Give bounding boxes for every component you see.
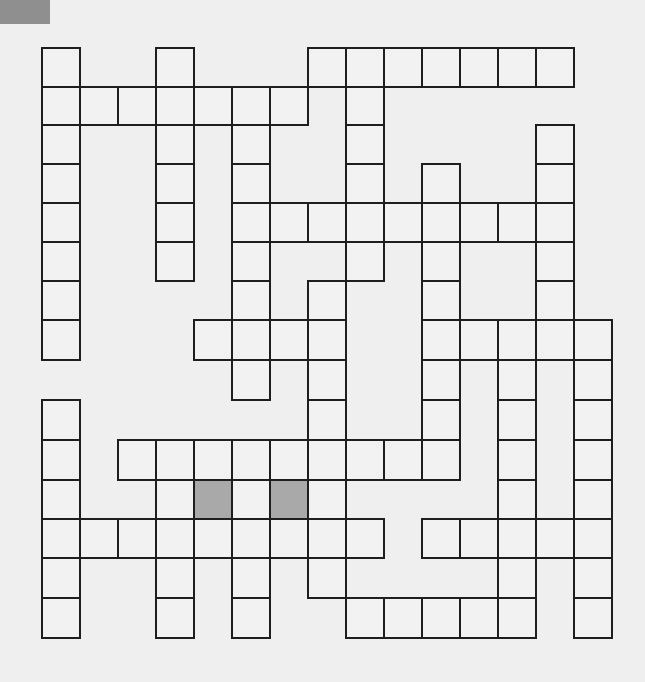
crossword-cell[interactable] [497,319,537,361]
crossword-cell[interactable] [155,163,195,204]
crossword-cell[interactable] [41,597,81,639]
crossword-cell[interactable] [231,518,271,559]
crossword-cell[interactable] [155,439,195,481]
crossword-cell[interactable] [345,86,385,126]
crossword-cell[interactable] [345,439,385,481]
crossword-cell[interactable] [307,557,347,599]
crossword-cell[interactable] [231,86,271,126]
crossword-cell[interactable] [497,479,537,520]
crossword-cell[interactable] [193,518,233,559]
crossword-cell[interactable] [269,202,309,243]
crossword-cell[interactable] [383,47,423,88]
crossword-cell[interactable] [269,319,309,361]
crossword-cell[interactable] [307,319,347,361]
crossword-cell[interactable] [231,163,271,204]
crossword-cell[interactable] [497,47,537,88]
crossword-cell[interactable] [193,86,233,126]
crossword-cell[interactable] [535,163,575,204]
crossword-cell[interactable] [421,359,461,401]
crossword-cell[interactable] [421,319,461,361]
crossword-cell[interactable] [307,399,347,441]
crossword-cell[interactable] [573,479,613,520]
crossword-cell[interactable] [193,319,233,361]
crossword-cell[interactable] [573,597,613,639]
crossword-cell[interactable] [117,439,157,481]
crossword-cell[interactable] [307,359,347,401]
crossword-cell[interactable] [345,597,385,639]
crossword-cell[interactable] [79,518,119,559]
crossword-cell[interactable] [155,518,195,559]
crossword-cell[interactable] [421,47,461,88]
crossword-cell[interactable] [155,241,195,282]
crossword-cell[interactable] [231,241,271,282]
crossword-cell[interactable] [535,47,575,88]
crossword-cell[interactable] [573,359,613,401]
crossword-cell[interactable] [421,202,461,243]
crossword-cell[interactable] [497,557,537,599]
crossword-cell[interactable] [41,439,81,481]
crossword-cell[interactable] [41,241,81,282]
crossword-cell[interactable] [41,479,81,520]
crossword-cell[interactable] [307,280,347,321]
crossword-cell[interactable] [155,124,195,165]
crossword-cell[interactable] [535,518,575,559]
crossword-cell[interactable] [41,280,81,321]
crossword-cell[interactable] [573,319,613,361]
crossword-cell[interactable] [383,597,423,639]
crossword-cell[interactable] [383,439,423,481]
crossword-cell[interactable] [421,597,461,639]
crossword-cell[interactable] [155,86,195,126]
crossword-cell[interactable] [41,163,81,204]
crossword-cell[interactable] [307,47,347,88]
crossword-cell[interactable] [79,86,119,126]
crossword-cell[interactable] [231,202,271,243]
crossword-cell[interactable] [41,202,81,243]
crossword-cell[interactable] [421,163,461,204]
crossword-cell[interactable] [41,557,81,599]
crossword-cell[interactable] [421,280,461,321]
crossword-cell[interactable] [41,47,81,88]
crossword-cell[interactable] [459,597,499,639]
crossword-cell[interactable] [345,124,385,165]
crossword-cell[interactable] [383,202,423,243]
crossword-cell[interactable] [497,202,537,243]
crossword-cell[interactable] [41,399,81,441]
crossword-cell[interactable] [41,124,81,165]
crossword-cell[interactable] [573,557,613,599]
crossword-cell[interactable] [307,479,347,520]
crossword-cell[interactable] [307,518,347,559]
crossword-cell[interactable] [459,202,499,243]
crossword-cell[interactable] [231,597,271,639]
crossword-cell[interactable] [497,439,537,481]
crossword-cell[interactable] [535,202,575,243]
crossword-cell[interactable] [231,359,271,401]
crossword-cell[interactable] [231,479,271,520]
crossword-cell[interactable] [345,241,385,282]
crossword-cell[interactable] [307,202,347,243]
crossword-cell[interactable] [231,557,271,599]
crossword-cell[interactable] [535,124,575,165]
crossword-cell[interactable] [421,241,461,282]
crossword-cell[interactable] [459,319,499,361]
crossword-cell[interactable] [497,359,537,401]
crossword-cell[interactable] [345,518,385,559]
crossword-cell[interactable] [421,439,461,481]
crossword-cell[interactable] [497,518,537,559]
crossword-cell[interactable] [155,557,195,599]
crossword-cell[interactable] [459,518,499,559]
crossword-cell[interactable] [41,518,81,559]
crossword-cell[interactable] [117,518,157,559]
crossword-cell[interactable] [535,241,575,282]
crossword-cell[interactable] [155,597,195,639]
crossword-cell[interactable] [231,439,271,481]
crossword-cell[interactable] [41,319,81,361]
crossword-cell[interactable] [155,479,195,520]
crossword-cell[interactable] [231,280,271,321]
crossword-cell[interactable] [421,399,461,441]
crossword-cell[interactable] [535,280,575,321]
crossword-cell[interactable] [269,86,309,126]
crossword-cell[interactable] [345,163,385,204]
crossword-cell[interactable] [269,439,309,481]
crossword-cell[interactable] [193,439,233,481]
crossword-cell[interactable] [573,439,613,481]
